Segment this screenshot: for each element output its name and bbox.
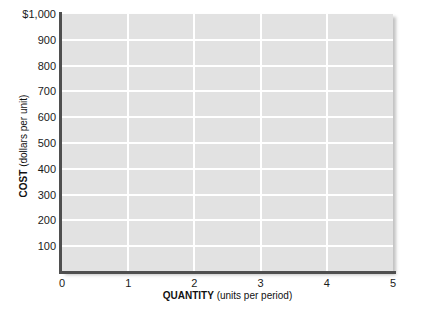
y-axis-title-bold: COST	[18, 170, 29, 198]
y-axis-title-rest: (dollars per unit)	[18, 95, 29, 170]
x-axis-tick-labels: 012345	[0, 0, 432, 318]
x-axis-title-rest: (units per period)	[214, 290, 292, 301]
x-axis-title-bold: QUANTITY	[163, 290, 214, 301]
x-axis-tick-label: 1	[113, 277, 143, 289]
y-axis-title: COST (dollars per unit)	[18, 81, 30, 211]
x-axis-tick-label: 4	[312, 277, 342, 289]
x-axis-title: QUANTITY (units per period)	[62, 290, 393, 302]
cost-quantity-chart: 100200300400500600700800900$1,000 012345…	[0, 0, 432, 318]
x-axis-tick-label: 0	[47, 277, 77, 289]
x-axis-tick-label: 5	[378, 277, 408, 289]
x-axis-tick-label: 3	[246, 277, 276, 289]
x-axis-tick-label: 2	[179, 277, 209, 289]
